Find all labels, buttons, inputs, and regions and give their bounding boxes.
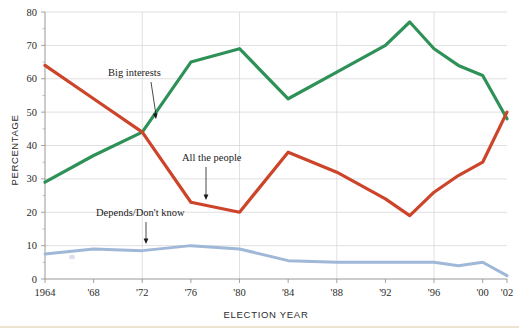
x-tick-label-1968: '68	[87, 287, 99, 298]
x-tick-label-1984: '84	[282, 287, 295, 298]
y-tick-label-40: 40	[27, 140, 38, 151]
annotation-label-depends-don-t-know: Depends/Don't know	[96, 207, 185, 218]
chart-figure: 01020304050607080 1964'68'72'76'80'84'88…	[0, 0, 519, 332]
x-tick-label-2002: '02	[501, 287, 513, 298]
y-tick-label-70: 70	[27, 40, 38, 51]
x-tick-label-1980: '80	[233, 287, 245, 298]
line-chart: 01020304050607080 1964'68'72'76'80'84'88…	[0, 0, 519, 332]
y-tick-label-30: 30	[27, 173, 38, 184]
y-tick-label-60: 60	[27, 73, 38, 84]
y-tick-label-10: 10	[27, 240, 38, 251]
x-tick-label-1972: '72	[136, 287, 148, 298]
y-tick-label-50: 50	[27, 107, 38, 118]
annotation-label-big-interests: Big interests	[108, 67, 161, 78]
x-tick-label-1976: '76	[185, 287, 197, 298]
x-tick-label-1992: '92	[379, 287, 391, 298]
chart-background	[0, 0, 519, 332]
y-tick-label-0: 0	[32, 274, 37, 285]
y-tick-label-20: 20	[27, 207, 38, 218]
y-tick-label-80: 80	[27, 7, 38, 18]
x-tick-label-1996: '96	[428, 287, 440, 298]
y-axis-tick-labels: 01020304050607080	[27, 7, 38, 285]
x-tick-label-2000: '00	[476, 287, 488, 298]
page-smudge	[69, 255, 75, 259]
x-axis-title: ELECTION YEAR	[224, 309, 309, 320]
x-tick-label-1964: 1964	[35, 287, 57, 298]
x-tick-label-1988: '88	[331, 287, 343, 298]
y-axis-title: PERCENTAGE	[9, 115, 20, 186]
annotation-label-all-the-people: All the people	[182, 152, 242, 163]
